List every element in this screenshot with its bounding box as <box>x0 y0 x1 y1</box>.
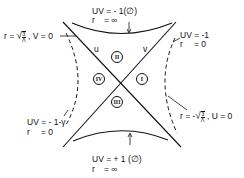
right-dashed-curve <box>165 38 177 133</box>
left-top-label: r = √3Λ , V = 0 <box>4 31 53 43</box>
bottom-r-value: = ∞ <box>104 165 117 174</box>
right-bottom-r: r = - <box>180 111 195 121</box>
left-bottom-r-value: = 0 <box>41 128 53 137</box>
u-axis-line <box>63 22 181 147</box>
region-II-label: II <box>111 51 123 63</box>
spacetime-diagram <box>0 0 244 178</box>
right-bottom-tail: , U = 0 <box>207 111 232 121</box>
region-III-label: III <box>111 96 123 108</box>
right-bottom-sqrt-den: Λ <box>201 118 205 123</box>
right-bottom-label: r = -√3Λ , U = 0 <box>180 111 232 123</box>
left-dashed-curve <box>66 33 78 125</box>
left-top-r: r = <box>4 31 14 41</box>
left-top-sqrt-den: Λ <box>22 38 26 43</box>
bottom-hyperbola <box>73 131 168 141</box>
bottom-uv-label: UV = + 1 (∅) <box>92 155 142 164</box>
left-bottom-r-label: r <box>27 128 30 137</box>
right-bottom-pointer <box>168 96 187 110</box>
right-top-r-label: r <box>180 40 183 49</box>
top-r-value: = ∞ <box>104 16 117 25</box>
top-hyperbola <box>72 23 172 34</box>
left-bottom-uv-label: UV = - 1-γ <box>27 118 66 127</box>
region-IV-label: IV <box>93 73 105 85</box>
left-bottom-pointer <box>64 110 68 116</box>
v-axis-label: v <box>143 45 147 54</box>
right-top-r-value: = 0 <box>194 40 206 49</box>
bottom-r-label: r <box>92 165 95 174</box>
top-r-label: r <box>92 16 95 25</box>
u-axis-label: u <box>94 45 99 54</box>
region-I-label: I <box>136 73 148 85</box>
left-top-tail: , V = 0 <box>28 31 53 41</box>
